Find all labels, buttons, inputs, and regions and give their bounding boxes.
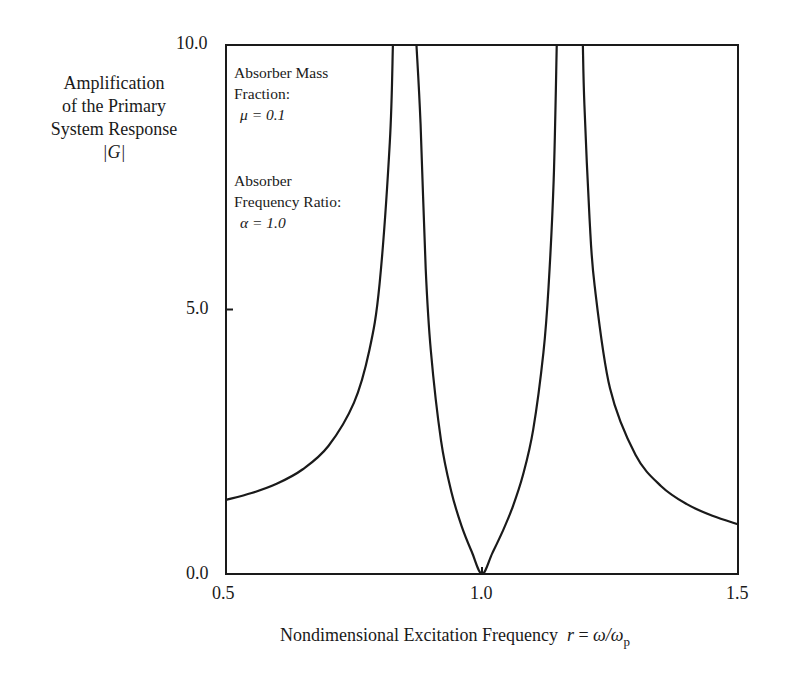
curve-branch-3 [583,45,738,524]
plot-area [0,0,788,678]
response-curve [226,45,738,574]
plot-frame [226,45,738,574]
curve-branch-1 [226,45,393,500]
curve-branch-2 [416,45,556,574]
